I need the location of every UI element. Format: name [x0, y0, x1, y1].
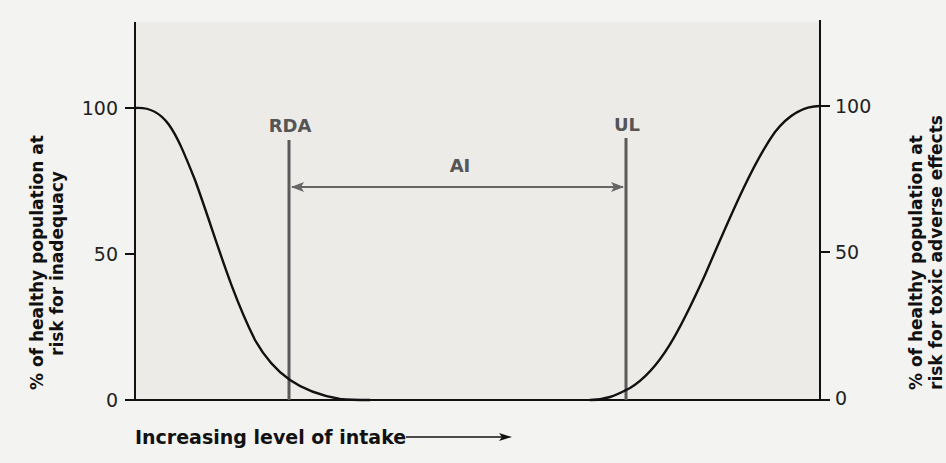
- svg-text:risk for inadequacy: risk for inadequacy: [47, 171, 67, 356]
- rda-label: RDA: [269, 115, 312, 136]
- ul-label: UL: [614, 114, 640, 135]
- left-axis-title: % of healthy population at risk for inad…: [27, 135, 67, 390]
- right-tick-label-50: 50: [835, 241, 859, 263]
- left-tick-label-0: 0: [106, 389, 118, 411]
- x-axis-title: Increasing level of intake: [135, 426, 406, 448]
- plot-area: [136, 22, 820, 400]
- right-tick-label-100: 100: [835, 95, 871, 117]
- left-tick-label-50: 50: [94, 243, 118, 265]
- left-tick-label-100: 100: [82, 97, 118, 119]
- svg-text:risk for toxic adverse effects: risk for toxic adverse effects: [926, 115, 946, 390]
- ai-label: AI: [450, 155, 471, 176]
- svg-text:% of healthy population at: % of healthy population at: [906, 135, 926, 390]
- svg-text:% of healthy population at: % of healthy population at: [27, 135, 47, 390]
- chart: 100 50 0 100 50 0 RDA UL AI % of healthy…: [0, 0, 946, 463]
- right-tick-label-0: 0: [835, 387, 847, 409]
- right-axis-title: % of healthy population at risk for toxi…: [906, 115, 946, 390]
